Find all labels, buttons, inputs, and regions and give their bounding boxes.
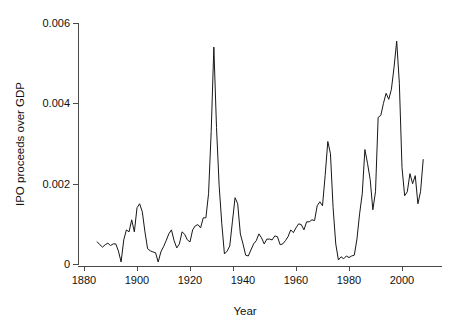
y-tick-group: 0 0.002 0.004 0.006 [42,17,78,270]
x-axis-title: Year [233,305,256,317]
data-series-line [97,41,423,262]
x-tick-label: 1880 [72,274,96,286]
x-tick-label: 2000 [390,274,414,286]
x-tick-label: 1940 [231,274,255,286]
chart-figure: 0 0.002 0.004 0.006 IPO proceeds over GD… [0,0,451,328]
y-tick-label: 0 [64,258,70,270]
x-tick-label: 1920 [178,274,202,286]
x-tick-group: 1880 1900 1920 1940 1960 1980 2000 [72,266,414,286]
y-tick-label: 0.004 [42,97,70,109]
y-tick-label: 0.002 [42,178,70,190]
ipo-proceeds-over-gdp-line-chart: 0 0.002 0.004 0.006 IPO proceeds over GD… [0,0,451,328]
x-axis: 1880 1900 1920 1940 1960 1980 2000 Year [72,266,442,317]
y-tick-label: 0.006 [42,17,70,29]
x-tick-label: 1980 [337,274,361,286]
x-tick-label: 1960 [284,274,308,286]
y-axis-title: IPO proceeds over GDP [14,82,26,206]
y-axis: 0 0.002 0.004 0.006 IPO proceeds over GD… [14,17,78,270]
x-tick-label: 1900 [125,274,149,286]
